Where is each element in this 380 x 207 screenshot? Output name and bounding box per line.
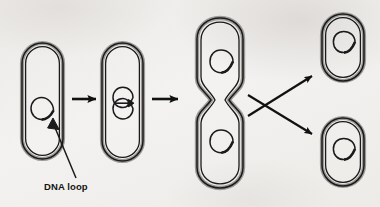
cell-3-outer-membrane xyxy=(197,18,243,188)
binary-fission-diagram: DNA loop xyxy=(0,0,380,207)
cell-3-dna-loop-lower-tail xyxy=(221,142,233,153)
cell-1-outer-membrane xyxy=(22,43,63,159)
cell-5-daughter-bottom xyxy=(322,118,364,186)
cell-4-inner-membrane xyxy=(326,18,361,78)
arrow-4-shaft xyxy=(248,95,312,134)
cell-2-replicating-cell xyxy=(102,43,143,161)
dna-loop-label: DNA loop xyxy=(44,181,88,192)
cell-1-dna-loop-tail xyxy=(42,111,54,120)
dna-loop-leader-arrowhead xyxy=(48,118,60,130)
cell-2-dna-loop-tail xyxy=(128,100,134,107)
cell-1-parent-cell xyxy=(22,43,63,159)
cell-3-dna-loop-upper-tail xyxy=(221,62,233,73)
cell-3-wall-band xyxy=(197,18,243,188)
cell-5-inner-membrane xyxy=(326,122,361,183)
cell-4-wall-band xyxy=(322,14,364,81)
arrow-cell3-to-daughter-bottom xyxy=(248,95,312,134)
cell-4-outer-membrane xyxy=(322,14,364,81)
arrow-3-shaft xyxy=(248,76,312,116)
cell-1-inner-membrane xyxy=(26,47,60,156)
cell-4-daughter-top xyxy=(322,14,364,81)
arrow-cell3-to-daughter-top xyxy=(248,76,312,116)
cell-2-outer-membrane xyxy=(102,43,143,161)
cell-1-wall-band xyxy=(22,43,63,159)
cell-2-wall-band xyxy=(102,43,143,161)
cell-5-outer-membrane xyxy=(322,118,364,186)
cell-4-dna-loop-tail xyxy=(344,42,355,53)
cell-5-dna-loop-tail xyxy=(344,149,355,160)
cell-2-inner-membrane xyxy=(106,47,140,158)
cell-3-dividing-cell xyxy=(197,18,243,188)
diagram-canvas: DNA loop xyxy=(0,0,380,207)
cell-5-wall-band xyxy=(322,118,364,186)
dna-loop-callout: DNA loop xyxy=(44,118,88,192)
